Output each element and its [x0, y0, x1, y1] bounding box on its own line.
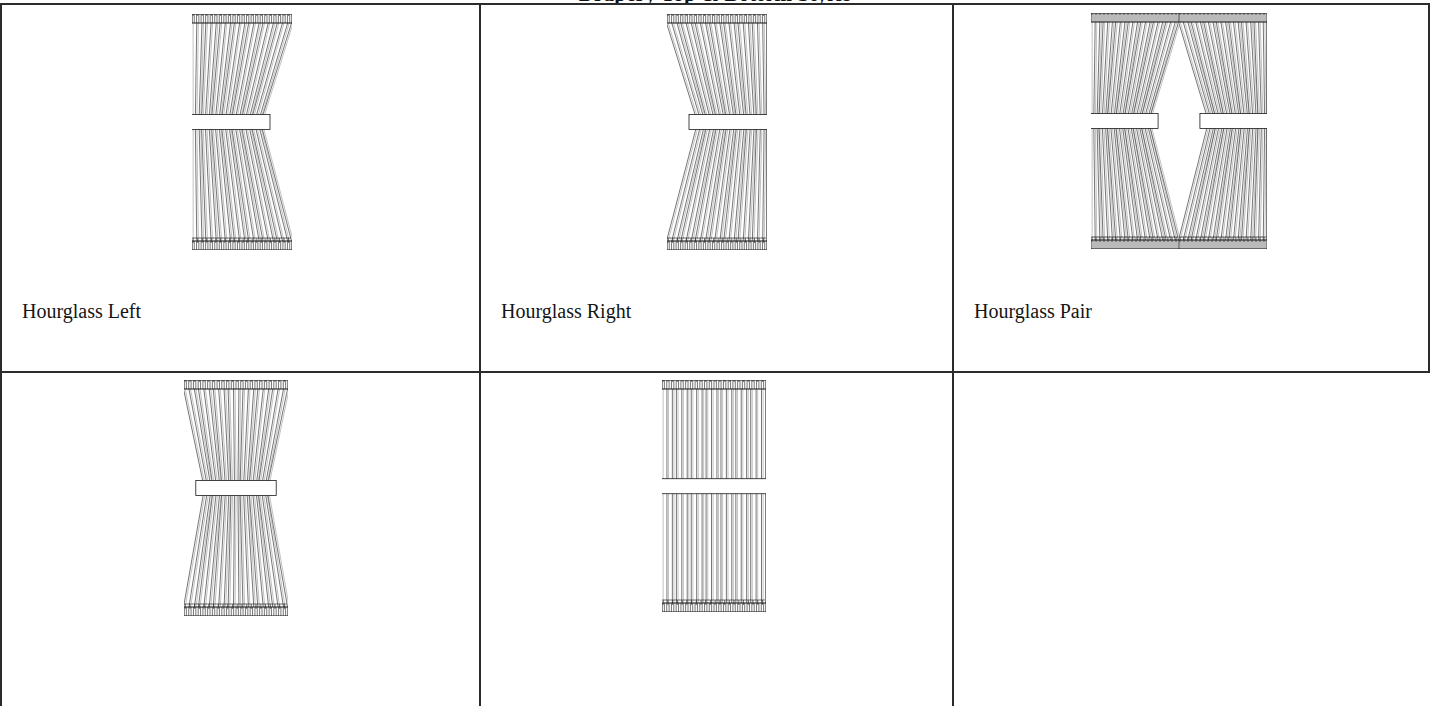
drapery-style-grid-page: Drapery Top & Bottom Styles .faint{strok…	[0, 0, 1430, 709]
grid-cell-hourglass-left: .faint{stroke-opacity:.45}Hourglass Left	[0, 3, 479, 371]
drapery-figure-top-and-bottom: .faint{stroke-opacity:.45}	[662, 380, 766, 612]
drapery-figure-hourglass-pair: .faint{stroke-opacity:.45}.faint{stroke-…	[1091, 13, 1267, 249]
style-grid: .faint{stroke-opacity:.45}Hourglass Left…	[0, 3, 1430, 709]
table-rule-column-1	[479, 3, 481, 706]
drape-panel-right: .faint{stroke-opacity:.45}	[1179, 13, 1267, 249]
grid-cell-empty	[952, 371, 1430, 706]
cell-label: Hourglass Left	[22, 300, 141, 322]
grid-cell-hourglass-pair: .faint{stroke-opacity:.45}.faint{stroke-…	[952, 3, 1430, 371]
table-rule-column-2	[952, 3, 954, 706]
grid-cell-top-bottom: .faint{stroke-opacity:.45}Top & Bottom	[479, 371, 952, 706]
grid-cell-hourglass-right: .faint{stroke-opacity:.45}Hourglass Righ…	[479, 3, 952, 371]
drape-panel-left: .faint{stroke-opacity:.45}	[1091, 13, 1179, 249]
drapery-figure-hourglass-right: .faint{stroke-opacity:.45}	[667, 14, 767, 250]
drapery-figure-hourglass-left: .faint{stroke-opacity:.45}	[192, 14, 292, 250]
cell-label: Hourglass Pair	[974, 300, 1092, 322]
grid-cell-hourglass: .faint{stroke-opacity:.45}Hourglass	[0, 371, 479, 706]
cell-label: Hourglass Right	[501, 300, 631, 322]
table-border-left	[0, 3, 2, 706]
drapery-figure-hourglass: .faint{stroke-opacity:.45}	[184, 380, 288, 616]
table-rule-row-divider	[0, 371, 1430, 373]
table-border-top	[0, 3, 1430, 5]
